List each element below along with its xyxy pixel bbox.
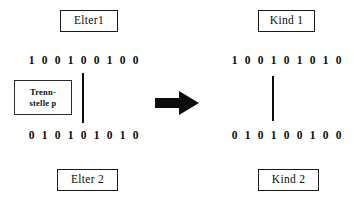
bit-cell: 0 xyxy=(332,55,345,67)
child2-label-box: Kind 2 xyxy=(258,169,319,191)
bit-cell: 1 xyxy=(38,130,51,142)
parent2-bitstring: 010101010 xyxy=(25,130,142,142)
child1-label-box: Kind 1 xyxy=(258,10,315,32)
bit-cell: 0 xyxy=(77,55,90,67)
bit-cell: 0 xyxy=(241,55,254,67)
bit-cell: 0 xyxy=(116,55,129,67)
bit-cell: 1 xyxy=(64,55,77,67)
bit-cell: 0 xyxy=(332,130,345,142)
bit-cell: 1 xyxy=(116,130,129,142)
bit-cell: 0 xyxy=(254,130,267,142)
crossover-diagram: Elter1 100100100 Trenn- stelle p 0101010… xyxy=(0,0,354,204)
bit-cell: 1 xyxy=(267,130,280,142)
crossover-point-line2: stelle p xyxy=(30,98,57,109)
bit-cell: 0 xyxy=(319,130,332,142)
bit-cell: 0 xyxy=(129,130,142,142)
bit-cell: 1 xyxy=(241,130,254,142)
child1-label-text: Kind 1 xyxy=(270,15,303,27)
bit-cell: 0 xyxy=(280,130,293,142)
bit-cell: 1 xyxy=(293,55,306,67)
bit-cell: 0 xyxy=(280,55,293,67)
bit-cell: 1 xyxy=(64,130,77,142)
parent2-label-text: Elter 2 xyxy=(71,174,104,186)
bit-cell: 0 xyxy=(51,130,64,142)
child-crossover-line xyxy=(272,76,274,121)
bit-cell: 0 xyxy=(228,130,241,142)
bit-cell: 1 xyxy=(319,55,332,67)
child2-bitstring: 010100100 xyxy=(228,130,345,142)
arrow-right-icon xyxy=(155,90,199,116)
bit-cell: 0 xyxy=(129,55,142,67)
parent1-label-text: Elter1 xyxy=(74,15,104,27)
child2-label-text: Kind 2 xyxy=(272,174,305,186)
bit-cell: 0 xyxy=(51,55,64,67)
parent1-label-box: Elter1 xyxy=(60,10,118,32)
bit-cell: 0 xyxy=(25,130,38,142)
bit-cell: 0 xyxy=(254,55,267,67)
parent-crossover-line xyxy=(82,73,84,123)
bit-cell: 1 xyxy=(103,55,116,67)
bit-cell: 0 xyxy=(306,55,319,67)
bit-cell: 1 xyxy=(306,130,319,142)
bit-cell: 1 xyxy=(25,55,38,67)
bit-cell: 1 xyxy=(267,55,280,67)
parent1-bitstring: 100100100 xyxy=(25,55,142,67)
bit-cell: 0 xyxy=(77,130,90,142)
crossover-point-box: Trenn- stelle p xyxy=(14,80,72,115)
parent2-label-box: Elter 2 xyxy=(57,169,118,191)
bit-cell: 0 xyxy=(293,130,306,142)
bit-cell: 0 xyxy=(103,130,116,142)
bit-cell: 0 xyxy=(90,55,103,67)
bit-cell: 0 xyxy=(38,55,51,67)
child1-bitstring: 100101010 xyxy=(228,55,345,67)
bit-cell: 1 xyxy=(90,130,103,142)
crossover-point-line1: Trenn- xyxy=(30,87,56,98)
bit-cell: 1 xyxy=(228,55,241,67)
